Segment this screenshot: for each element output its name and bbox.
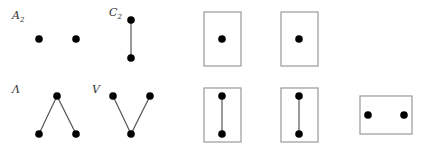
- node: [35, 35, 43, 43]
- edge: [131, 96, 150, 134]
- framed-single-vertex-2: [281, 12, 318, 66]
- label-a2-sub: 2: [19, 16, 25, 24]
- node: [146, 92, 154, 100]
- label-a2: A2: [11, 9, 25, 24]
- framed-edge-2: [281, 88, 318, 142]
- node: [364, 111, 372, 119]
- label-c2: C2: [109, 6, 122, 21]
- diagram-canvas: A2 C2 Λ V: [0, 0, 429, 147]
- node: [218, 35, 226, 43]
- node: [127, 16, 135, 24]
- framed-pair: [360, 96, 412, 134]
- node: [35, 130, 43, 138]
- edge: [39, 96, 57, 134]
- graph-a2: A2: [11, 9, 80, 43]
- graph-v: V: [92, 83, 154, 138]
- node: [295, 92, 303, 100]
- node: [53, 92, 61, 100]
- node: [295, 35, 303, 43]
- node: [72, 35, 80, 43]
- node: [295, 130, 303, 138]
- label-v: V: [92, 83, 101, 96]
- node: [109, 92, 117, 100]
- label-lambda: Λ: [11, 83, 20, 96]
- label-a2-main: A: [11, 9, 20, 22]
- node: [127, 54, 135, 62]
- graph-lambda: Λ: [11, 83, 80, 138]
- framed-edge-1: [204, 88, 241, 142]
- node: [72, 130, 80, 138]
- label-c2-sub: 2: [116, 13, 122, 21]
- edge: [57, 96, 76, 134]
- graph-c2: C2: [109, 6, 135, 62]
- node: [400, 111, 408, 119]
- node: [218, 130, 226, 138]
- edge: [113, 96, 131, 134]
- node: [127, 130, 135, 138]
- node: [218, 92, 226, 100]
- framed-single-vertex-1: [204, 12, 241, 66]
